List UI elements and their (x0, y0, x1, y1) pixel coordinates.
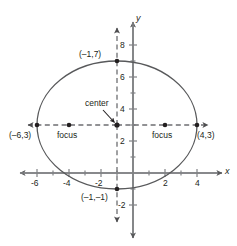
y-tick-label-8: 8 (120, 41, 125, 50)
x-tick-label-neg4: -4 (63, 179, 71, 188)
y-tick-label-6: 6 (120, 73, 125, 82)
marker-focus-right (163, 123, 168, 128)
focus-right-label: focus (152, 131, 172, 140)
point-label-left-vertex: (–6,3) (9, 131, 31, 140)
ellipse-figure: x y -6 -4 -2 2 4 8 6 4 2 -2 (–1,7) (–6,3… (0, 0, 237, 246)
y-tick-label-4: 4 (120, 105, 125, 114)
y-axis (129, 22, 137, 238)
center-pointer-arrow (103, 110, 115, 123)
focus-left-label: focus (57, 131, 77, 140)
marker-center (114, 122, 119, 127)
marker-bottom-vertex (115, 187, 120, 192)
x-axis (20, 169, 222, 177)
y-axis-label: y (136, 14, 141, 23)
x-tick-label-neg6: -6 (31, 179, 39, 188)
x-tick-label-4: 4 (195, 179, 200, 188)
marker-top-vertex (115, 59, 120, 64)
marker-right-vertex (195, 123, 200, 128)
x-tick-label-neg2: -2 (95, 179, 103, 188)
point-label-top-vertex: (–1,7) (79, 50, 101, 59)
y-tick-label-neg2: -2 (118, 201, 126, 210)
x-axis-label: x (225, 167, 230, 176)
point-label-bottom-vertex: (–1,–1) (81, 193, 108, 202)
point-label-right-vertex: (4,3) (197, 131, 214, 140)
x-tick-label-2: 2 (163, 179, 168, 188)
marker-focus-left (67, 123, 72, 128)
y-tick-label-2: 2 (120, 137, 125, 146)
center-annotation-label: center (85, 99, 109, 108)
marker-left-vertex (35, 123, 40, 128)
